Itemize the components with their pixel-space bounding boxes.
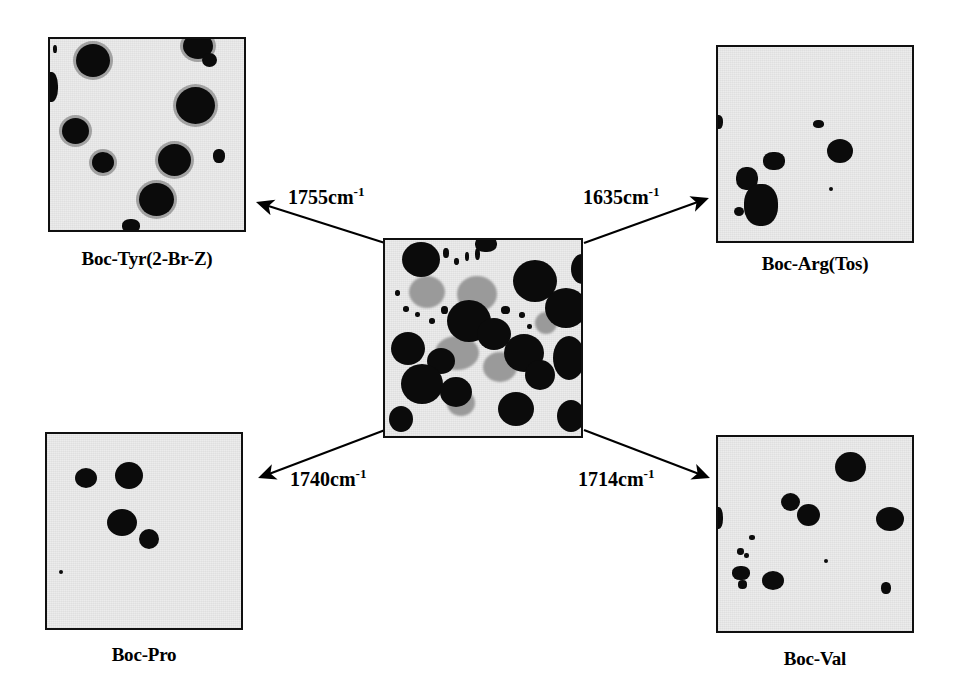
ir-absorbance-spot <box>525 360 555 390</box>
panel-caption-boc-arg-tos: Boc-Arg(Tos) <box>716 253 914 275</box>
ir-absorbance-spot <box>744 553 749 558</box>
ir-absorbance-spot <box>395 290 400 296</box>
ir-absorbance-spot <box>176 87 215 124</box>
ir-absorbance-spot <box>527 324 532 329</box>
wavenumber-label-1635: 1635cm-1 <box>583 186 660 209</box>
wavenumber-label-1740: 1740cm-1 <box>290 468 367 491</box>
ir-absorbance-spot <box>401 364 443 404</box>
ir-absorbance-spot <box>92 152 114 173</box>
ir-absorbance-spot <box>402 242 440 277</box>
panel-boc-pro[interactable] <box>45 432 243 630</box>
ir-absorbance-spot <box>738 580 747 589</box>
ir-absorbance-spot <box>440 377 472 407</box>
ir-absorbance-spot <box>763 152 785 170</box>
ir-absorbance-spot <box>781 493 800 511</box>
ir-absorbance-spot <box>835 452 866 482</box>
ir-absorbance-spot <box>391 332 425 365</box>
ir-absorbance-spot <box>465 252 469 261</box>
ir-absorbance-spot <box>158 144 191 176</box>
ir-absorbance-spot <box>716 507 723 529</box>
ir-absorbance-spot <box>213 149 225 163</box>
ir-absorbance-spot <box>824 559 828 563</box>
panel-caption-boc-val: Boc-Val <box>716 648 914 670</box>
ir-absorbance-spot <box>403 306 409 312</box>
ir-absorbance-spot <box>475 248 480 260</box>
ir-absorbance-spot <box>409 276 445 308</box>
ir-absorbance-spot <box>829 187 833 191</box>
ir-absorbance-spot <box>429 318 435 324</box>
ir-absorbance-spot <box>744 184 778 226</box>
superscript: -1 <box>649 184 660 199</box>
ir-absorbance-spot <box>441 306 448 314</box>
panel-boc-arg-tos[interactable] <box>716 45 914 243</box>
superscript: -1 <box>356 466 367 481</box>
ir-absorbance-spot <box>545 288 583 328</box>
ir-absorbance-spot <box>737 548 744 555</box>
ir-imaging-figure: Boc-Tyr(2-Br-Z) Boc-Arg(Tos) Boc-Pro Boc… <box>0 0 965 694</box>
ir-absorbance-spot <box>557 400 583 432</box>
panel-image-surface <box>718 437 912 631</box>
ir-absorbance-spot <box>202 53 217 67</box>
ir-absorbance-spot <box>749 535 755 540</box>
ir-absorbance-spot <box>553 336 583 380</box>
ir-absorbance-spot <box>53 45 57 53</box>
ir-absorbance-spot <box>75 468 97 488</box>
ir-absorbance-spot <box>716 115 723 129</box>
ir-absorbance-spot <box>881 582 891 594</box>
ir-absorbance-spot <box>107 509 137 536</box>
ir-absorbance-spot <box>501 306 510 314</box>
ir-absorbance-spot <box>498 392 534 426</box>
arrow-to-top-left <box>259 203 385 243</box>
ir-absorbance-spot <box>876 507 904 531</box>
panel-caption-boc-tyr-2-br-z: Boc-Tyr(2-Br-Z) <box>48 248 246 270</box>
ir-absorbance-spot <box>76 44 110 77</box>
ir-absorbance-spot <box>797 504 820 526</box>
ir-absorbance-spot <box>59 570 63 574</box>
wavenumber-label-1755: 1755cm-1 <box>288 186 365 209</box>
wavenumber-label-1714: 1714cm-1 <box>578 468 655 491</box>
ir-absorbance-spot <box>519 312 525 318</box>
ir-absorbance-spot <box>115 462 143 489</box>
panel-caption-boc-pro: Boc-Pro <box>45 644 243 666</box>
panel-composite-ir-image[interactable] <box>383 238 583 438</box>
ir-absorbance-spot <box>454 258 459 265</box>
panel-boc-val[interactable] <box>716 435 914 633</box>
ir-absorbance-spot <box>139 529 159 549</box>
ir-absorbance-spot <box>122 219 140 232</box>
panel-boc-tyr-2-br-z[interactable] <box>48 37 246 232</box>
superscript: -1 <box>354 184 365 199</box>
ir-absorbance-spot <box>62 118 89 144</box>
ir-absorbance-spot <box>813 120 824 128</box>
ir-absorbance-spot <box>732 566 750 580</box>
ir-absorbance-spot <box>443 248 449 258</box>
ir-absorbance-spot <box>139 183 174 216</box>
ir-absorbance-spot <box>762 571 784 590</box>
ir-absorbance-spot <box>415 312 420 317</box>
ir-absorbance-spot <box>734 207 744 216</box>
superscript: -1 <box>644 466 655 481</box>
ir-absorbance-spot <box>389 406 413 432</box>
ir-absorbance-spot <box>827 139 853 163</box>
